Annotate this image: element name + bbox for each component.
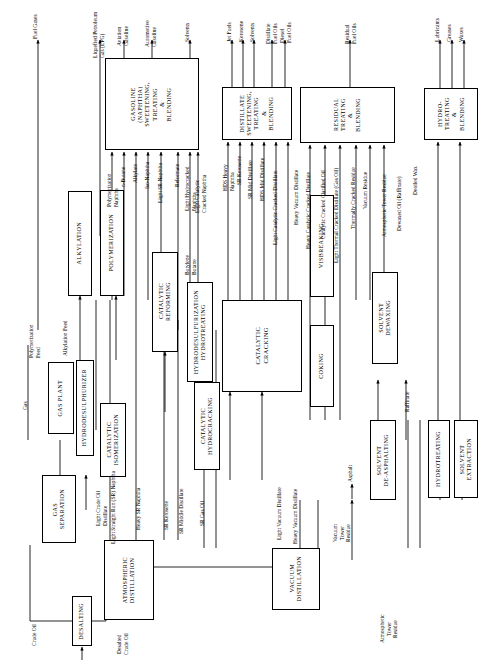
input-crude-oil: Crude Oil bbox=[31, 612, 38, 646]
unit-distillate-blending[interactable]: DISTILLATE SWEETENING, TREATING & BLENDI… bbox=[222, 87, 292, 140]
stream-label: Light Crude Oil Distillate bbox=[95, 491, 108, 526]
stream-reformate: Reformate bbox=[174, 155, 181, 187]
stream-label: SR Kerosene bbox=[163, 501, 169, 530]
stream-atmospheric-tower-residue: Atmospheric Tower Residue bbox=[379, 604, 399, 654]
stream-n-butane: n-Butane bbox=[120, 155, 127, 187]
unit-label: SOLVENT DEWAXING bbox=[378, 300, 392, 336]
unit-solvent-extraction[interactable]: SOLVENT EXTRACTION bbox=[454, 420, 478, 498]
stream-label: SR Kerosene bbox=[236, 156, 242, 185]
product-label: Jet Fuels bbox=[226, 22, 232, 42]
unit-label: SOLVENT EXTRACTION bbox=[459, 438, 473, 480]
stream-label: Atmospheric Tower Residue bbox=[381, 174, 387, 237]
stream-label: Butylene Butane bbox=[184, 255, 197, 275]
unit-alkylation[interactable]: ALKYLATION bbox=[68, 191, 92, 296]
stream-heavy-vacuum-distillate: Heavy Vacuum Distillate bbox=[292, 478, 299, 544]
unit-label: POLYMERIZATION bbox=[108, 214, 115, 271]
product-label: Asphalt bbox=[347, 465, 353, 482]
product-solvents-2: Solvents bbox=[249, 12, 256, 42]
unit-label: HYDRODESULFURIZATION HYDROTREATING bbox=[193, 290, 207, 374]
product-label: Waxes bbox=[458, 27, 464, 42]
stream-label: Alkylation Feed bbox=[62, 320, 68, 356]
stream-label: Light Catalytic Cracked Naphtha bbox=[194, 175, 207, 213]
unit-gas-separation[interactable]: GAS SEPARATION bbox=[42, 475, 76, 543]
unit-label: HYDROTREATING bbox=[435, 431, 442, 487]
unit-hydrodesulphurizer[interactable]: HYDRODESULPHURIZER bbox=[76, 360, 94, 456]
stream-label: Light SR Naphtha bbox=[157, 163, 163, 203]
stream-label: Heavy Catalytic Cracked Distillate bbox=[305, 172, 311, 249]
product-label: Automotive Gasoline bbox=[144, 20, 157, 47]
unit-gas-plant[interactable]: GAS PLANT bbox=[48, 362, 74, 434]
product-fuel-gases: Fuel Gases bbox=[32, 5, 39, 39]
unit-label: GASOLINE (NAPHTHA) SWEETENING, TREATING … bbox=[130, 82, 173, 127]
product-label: Fuel Gases bbox=[32, 14, 38, 39]
stream-sr-mid-distillate: SR Mid Distillate bbox=[247, 147, 254, 199]
stream-label: Light Vacuum Distillate bbox=[276, 487, 282, 540]
stream-catalytic-cracked-clarified-oil: Catalytic Cracked Clarified Oil bbox=[320, 147, 327, 239]
unit-catalytic-cracking[interactable]: CATALYTIC CRACKING bbox=[222, 300, 302, 392]
unit-catalytic-reforming[interactable]: CATALYTIC REFORMING bbox=[152, 252, 178, 352]
stream-gas: Gas bbox=[22, 392, 29, 410]
unit-label: CATALYTIC CRACKING bbox=[254, 327, 269, 365]
unit-label: RESIDUAL TREATING & BLENDING bbox=[333, 98, 362, 132]
unit-catalytic-hydrocracking[interactable]: CATALYTIC HYDROCRACKING bbox=[194, 382, 220, 470]
stream-label: Iso-Naphtha bbox=[144, 162, 150, 189]
stream-iso-naphtha: Iso-Naphtha bbox=[144, 155, 151, 189]
stream-label: Gas bbox=[22, 401, 28, 410]
stream-label: Alkylate bbox=[132, 164, 138, 183]
stream-label: Light Catalytic Cracked Distillate bbox=[272, 171, 278, 245]
stream-light-sr-naphtha: Light SR Naphtha bbox=[157, 155, 164, 203]
stream-label: Raffinate bbox=[404, 392, 410, 412]
unit-hydrotreating-blending[interactable]: HYDRO- TREATING & BLENDING bbox=[424, 88, 478, 140]
stream-label: Heavy Vacuum Distillate bbox=[293, 170, 299, 225]
stream-light-crude-oil-distillate: Light Crude Oil Distillate bbox=[95, 480, 108, 526]
stream-hds-heavy-naphtha: HDS Heavy Naphtha bbox=[222, 147, 235, 191]
stream-label: Thermally Cracked Residue bbox=[350, 167, 356, 229]
stream-label: n-Butane bbox=[120, 167, 126, 187]
unit-coking[interactable]: COKING bbox=[310, 325, 334, 407]
stream-label: SR Gas Oil bbox=[199, 501, 205, 526]
stream-hds-mid-distillate: HDS Mid Distillate bbox=[259, 147, 266, 201]
stream-label: HDS Heavy Naphtha bbox=[222, 164, 235, 191]
product-label: Solvents bbox=[184, 23, 190, 42]
product-label: Residual Fuel Oils bbox=[344, 23, 357, 44]
stream-label: Reformate bbox=[174, 164, 180, 187]
stream-vacuum-tower-residue: Vacuum Tower Residue bbox=[332, 512, 352, 554]
unit-desalting[interactable]: DESALTING bbox=[72, 596, 92, 646]
stream-label: Deoiled Wax bbox=[412, 166, 418, 195]
unit-hydrotreating[interactable]: HYDROTREATING bbox=[428, 420, 450, 498]
stream-light-straight-run-naphtha: Light Straight Run (SR) Naphtha bbox=[110, 462, 117, 544]
stream-label: Light Straight Run (SR) Naphtha bbox=[110, 471, 116, 544]
unit-label: VACUUM DISTILLATION bbox=[289, 556, 303, 602]
product-label: Diesel Fuel Oils bbox=[279, 22, 292, 43]
stream-vacuum-residue: Vacuum Residue bbox=[362, 147, 369, 209]
unit-hydrodesulfurization-hydrotreating[interactable]: HYDRODESULFURIZATION HYDROTREATING bbox=[187, 282, 213, 382]
stream-label: Polymerization Naphtha bbox=[106, 173, 119, 207]
unit-solvent-deasphalting[interactable]: SOLVENT DE-ASPHALTING bbox=[370, 420, 396, 500]
product-label: Aviation Gasoline bbox=[116, 26, 129, 46]
unit-label: GAS PLANT bbox=[57, 380, 64, 417]
unit-vacuum-distillation[interactable]: VACUUM DISTILLATION bbox=[272, 548, 320, 610]
unit-atmospheric-distillation[interactable]: ATMOSPHERIC DISTILLATION bbox=[104, 540, 154, 620]
product-label: Lubricants bbox=[434, 18, 440, 42]
stream-sr-middle-distillate: SR Middle Distillate bbox=[178, 478, 185, 534]
stream-label: SR Mid Distillate bbox=[247, 160, 253, 199]
product-greases: Greases bbox=[446, 12, 453, 42]
unit-label: GAS SEPARATION bbox=[52, 489, 66, 529]
product-waxes: Waxes bbox=[458, 14, 465, 42]
product-aviation-gasoline: Aviation Gasoline bbox=[116, 8, 129, 46]
unit-residual-blending[interactable]: RESIDUAL TREATING & BLENDING bbox=[300, 87, 395, 143]
unit-label: CATALYTIC ISOMERIZATION bbox=[106, 414, 120, 466]
input-label: Crude Oil bbox=[31, 624, 37, 646]
stream-label: Vacuum Tower Residue bbox=[332, 524, 351, 542]
stream-heavy-catalytic-cracked-distillate: Heavy Catalytic Cracked Distillate bbox=[305, 147, 312, 249]
stream-heavy-sr-naphtha: Heavy SR Naphtha bbox=[135, 478, 142, 530]
unit-solvent-dewaxing[interactable]: SOLVENT DEWAXING bbox=[372, 272, 398, 364]
stream-label: SR Middle Distillate bbox=[178, 488, 184, 534]
unit-label: CATALYTIC REFORMING bbox=[158, 282, 172, 321]
stream-label: Dewaxed Oil (Raffinate) bbox=[396, 176, 402, 231]
unit-gasoline-blending[interactable]: GASOLINE (NAPHTHA) SWEETENING, TREATING … bbox=[105, 58, 199, 150]
product-jet-fuels: Jet Fuels bbox=[226, 12, 233, 42]
unit-label: DISTILLATE SWEETENING, TREATING & BLENDI… bbox=[239, 91, 275, 136]
stream-thermally-cracked-residue: Thermally Cracked Residue bbox=[350, 147, 357, 229]
stream-label: Catalytic Cracked Clarified Oil bbox=[320, 170, 326, 239]
